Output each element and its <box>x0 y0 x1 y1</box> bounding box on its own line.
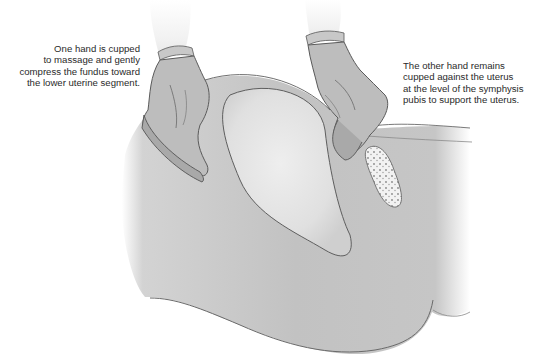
caption-line: The other hand remains <box>403 60 524 71</box>
caption-line: pubis to support the uterus. <box>403 94 524 105</box>
caption-line: at the level of the symphysis <box>403 83 524 94</box>
caption-line: compress the fundus toward <box>19 66 140 77</box>
caption-right-hand: The other hand remains cupped against th… <box>403 60 524 106</box>
caption-line: the lower uterine segment. <box>19 77 140 88</box>
caption-left-hand: One hand is cupped to massage and gently… <box>19 43 140 89</box>
caption-line: One hand is cupped <box>19 43 140 54</box>
caption-line: cupped against the uterus <box>403 71 524 82</box>
caption-line: to massage and gently <box>19 54 140 65</box>
figure-canvas: One hand is cupped to massage and gently… <box>0 0 542 357</box>
